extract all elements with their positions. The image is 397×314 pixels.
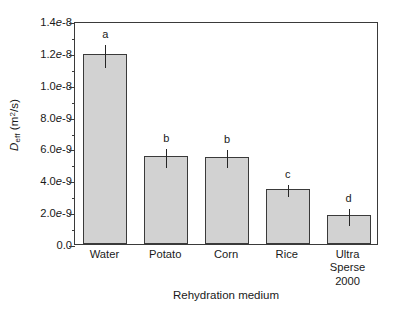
x-axis-category-label: Corn (214, 248, 238, 261)
x-axis-category-label: UltraSperse2000 (330, 248, 365, 288)
x-axis-title: Rehydration medium (74, 289, 378, 301)
y-axis-tick-label: 8.0e-9 (40, 112, 72, 124)
x-axis-category-line: 2000 (330, 275, 365, 288)
chart-figure: Deff (m2/s) 0.02.0e-94.0e-96.0e-98.0e-91… (0, 0, 397, 314)
y-axis-tick-label: 0.0 (56, 239, 72, 251)
significance-letter: b (163, 132, 169, 144)
bar (205, 157, 249, 244)
significance-letter: a (102, 28, 108, 40)
y-axis-tick-label: 2.0e-9 (40, 207, 72, 219)
error-bar (166, 149, 167, 168)
x-axis-category-line: Rice (276, 248, 298, 261)
x-axis-tick-labels: WaterPotatoCornRiceUltraSperse2000 (74, 248, 378, 294)
x-axis-category-line: Sperse (330, 261, 365, 274)
bar (144, 156, 188, 244)
y-axis-tick-label: 1.4e-8 (40, 16, 72, 28)
bar (266, 189, 310, 244)
x-axis-category-line: Potato (149, 248, 181, 261)
error-bar (349, 209, 350, 227)
plot-area: abbcd (74, 22, 378, 245)
x-axis-category-label: Water (90, 248, 119, 261)
x-axis-category-label: Potato (149, 248, 181, 261)
bars-layer: abbcd (75, 23, 377, 244)
significance-letter: b (224, 133, 230, 145)
error-bar (105, 45, 106, 67)
y-axis-tick-label: 1.2e-8 (40, 48, 72, 60)
y-axis-tick-label: 1.0e-8 (40, 80, 72, 92)
x-axis-category-label: Rice (276, 248, 298, 261)
y-axis-tick-label: 6.0e-9 (40, 143, 72, 155)
y-axis-tick-labels: 0.02.0e-94.0e-96.0e-98.0e-91.0e-81.2e-81… (18, 22, 72, 245)
significance-letter: d (346, 192, 352, 204)
y-axis-tick-label: 4.0e-9 (40, 175, 72, 187)
y-axis-tick-mark (69, 246, 75, 247)
x-axis-category-line: Water (90, 248, 119, 261)
x-axis-category-line: Ultra (330, 248, 365, 261)
bar (83, 54, 127, 244)
error-bar (288, 185, 289, 196)
y-axis-units-exponent: 2 (8, 112, 17, 117)
significance-letter: c (285, 168, 291, 180)
error-bar (227, 150, 228, 168)
x-axis-category-line: Corn (214, 248, 238, 261)
